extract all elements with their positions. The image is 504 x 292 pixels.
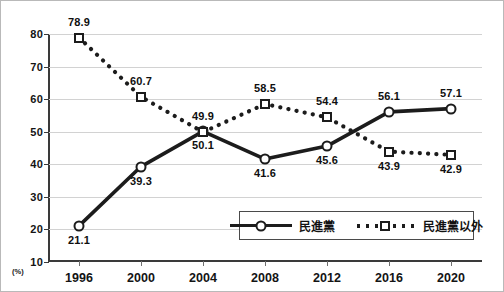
data-point-square xyxy=(136,92,146,102)
y-axis-tick-label: 30 xyxy=(30,191,43,203)
data-point-circle xyxy=(384,106,395,117)
data-point-circle xyxy=(322,141,333,152)
legend-item-dpp: 民進黨 xyxy=(230,217,335,234)
circle-marker-icon xyxy=(256,220,267,231)
data-point-square xyxy=(260,99,270,109)
data-point-circle xyxy=(260,154,271,165)
data-point-value-label: 58.5 xyxy=(254,82,276,94)
x-axis-tick-label: 2016 xyxy=(375,271,403,285)
data-point-circle xyxy=(74,220,85,231)
y-axis-tick-label: 70 xyxy=(30,61,43,73)
x-axis-tick-label: 1996 xyxy=(65,271,93,285)
chart-figure: (%) 1020304050607080 1996200020042008201… xyxy=(0,0,504,292)
y-axis-tick-label: 50 xyxy=(30,126,43,138)
x-axis-tick-label: 2020 xyxy=(437,271,465,285)
data-point-value-label: 43.9 xyxy=(378,160,400,172)
y-axis-tick-label: 60 xyxy=(30,93,43,105)
data-point-circle xyxy=(136,161,147,172)
x-axis-tick-label: 2004 xyxy=(189,271,217,285)
y-axis-tick-label: 80 xyxy=(30,28,43,40)
data-point-square xyxy=(384,147,394,157)
legend-label-dpp: 民進黨 xyxy=(299,217,335,234)
data-point-value-label: 45.6 xyxy=(316,154,338,166)
data-point-square xyxy=(74,33,84,43)
data-point-value-label: 42.9 xyxy=(440,163,462,175)
square-marker-icon xyxy=(380,221,390,231)
y-axis-tick-label: 20 xyxy=(30,223,43,235)
data-point-value-label: 41.6 xyxy=(254,167,276,179)
data-point-value-label: 21.1 xyxy=(68,234,90,246)
data-point-value-label: 60.7 xyxy=(130,75,152,87)
data-point-value-label: 78.9 xyxy=(68,16,90,28)
legend-swatch-dotted-square xyxy=(354,220,416,232)
data-point-value-label: 56.1 xyxy=(378,90,400,102)
x-axis-tick-label: 2000 xyxy=(127,271,155,285)
data-point-square xyxy=(446,150,456,160)
legend-item-other: 民進黨以外 xyxy=(354,217,483,234)
y-axis-tick-mark xyxy=(44,262,49,263)
data-point-value-label: 49.9 xyxy=(192,110,214,122)
legend-label-other: 民進黨以外 xyxy=(423,217,483,234)
legend-swatch-solid-circle xyxy=(230,220,292,232)
data-point-value-label: 57.1 xyxy=(440,87,462,99)
y-axis-tick-label: 40 xyxy=(30,158,43,170)
x-axis-tick-label: 2008 xyxy=(251,271,279,285)
data-point-square xyxy=(198,127,208,137)
chart-legend: 民進黨 民進黨以外 xyxy=(239,211,474,240)
data-point-value-label: 39.3 xyxy=(130,175,152,187)
data-point-value-label: 54.4 xyxy=(316,95,338,107)
y-axis-unit-label: (%) xyxy=(12,267,24,276)
data-point-square xyxy=(322,112,332,122)
x-axis-tick-label: 2012 xyxy=(313,271,341,285)
data-point-value-label: 50.1 xyxy=(192,139,214,151)
y-axis-tick-label: 10 xyxy=(30,256,43,268)
data-point-circle xyxy=(446,103,457,114)
